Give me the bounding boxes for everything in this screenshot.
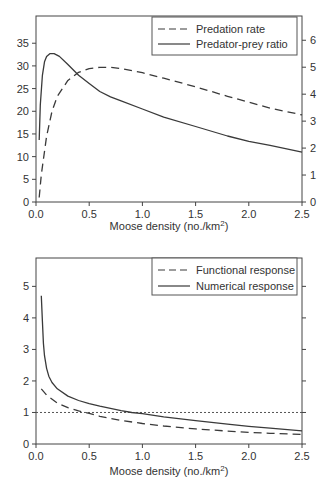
y-tick-label: 3 [23,343,29,355]
x-tick-label: 1.5 [188,208,203,220]
top-legend: Predation rate Predator-prey ratio [152,17,297,55]
y-tick-label: 10 [17,151,29,163]
x-tick-label: 0.5 [82,208,97,220]
bottom-x-axis-ticks: 0.00.51.01.52.02.5 [28,444,309,462]
y-tick-label: 15 [17,128,29,140]
x-tick-label: 2.0 [241,208,256,220]
x-tick-label: 1.0 [135,450,150,462]
x-tick-label: 2.5 [294,450,309,462]
x-tick-label: 0.5 [82,450,97,462]
bottom-chart-panel: 0.00.51.01.52.02.5 012345 Functional res… [23,258,310,477]
bottom-x-axis-title: Moose density (no./km2) [110,464,229,477]
top-x-axis-title: Moose density (no./km2) [110,219,229,232]
bottom-legend: Functional response Numerical response [152,258,297,295]
series-numerical-response [41,296,302,431]
top-chart-panel: 0.00.51.01.52.02.5 05101520253035 012345… [17,16,316,232]
y-tick-label: 5 [23,280,29,292]
y-tick-label: 25 [17,83,29,95]
y2-tick-label: 4 [310,88,316,100]
legend-label-functional-response: Functional response [196,264,295,276]
top-right-y-axis-ticks: 0123456 [302,34,316,208]
top-x-axis-ticks: 0.00.51.01.52.02.5 [28,202,309,220]
x-tick-label: 1.0 [135,208,150,220]
top-series-lines [39,54,302,198]
x-tick-label: 0.0 [28,208,43,220]
y2-tick-label: 5 [310,61,316,73]
y2-tick-label: 3 [310,115,316,127]
y-tick-label: 0 [23,196,29,208]
legend-label-predation-rate: Predation rate [196,23,265,35]
series-predation-rate [39,67,302,197]
x-tick-label: 2.5 [294,208,309,220]
y2-tick-label: 0 [310,196,316,208]
y2-tick-label: 6 [310,34,316,46]
y-tick-label: 4 [23,312,29,324]
y-tick-label: 35 [17,37,29,49]
bottom-y-axis-ticks: 012345 [23,280,306,450]
x-tick-label: 0.0 [28,450,43,462]
y-tick-label: 30 [17,60,29,72]
figure: 0.00.51.01.52.02.5 05101520253035 012345… [0,0,334,496]
y-tick-label: 1 [23,406,29,418]
y-tick-label: 20 [17,105,29,117]
top-left-y-axis-ticks: 05101520253035 [17,37,36,208]
bottom-series-lines [41,296,302,435]
legend-label-predator-prey-ratio: Predator-prey ratio [196,38,288,50]
series-predator-prey-ratio [39,54,302,152]
y-tick-label: 0 [23,438,29,450]
y2-tick-label: 2 [310,142,316,154]
y2-tick-label: 1 [310,169,316,181]
legend-label-numerical-response: Numerical response [196,280,294,292]
y-tick-label: 2 [23,375,29,387]
y-tick-label: 5 [23,173,29,185]
x-tick-label: 1.5 [188,450,203,462]
x-tick-label: 2.0 [241,450,256,462]
